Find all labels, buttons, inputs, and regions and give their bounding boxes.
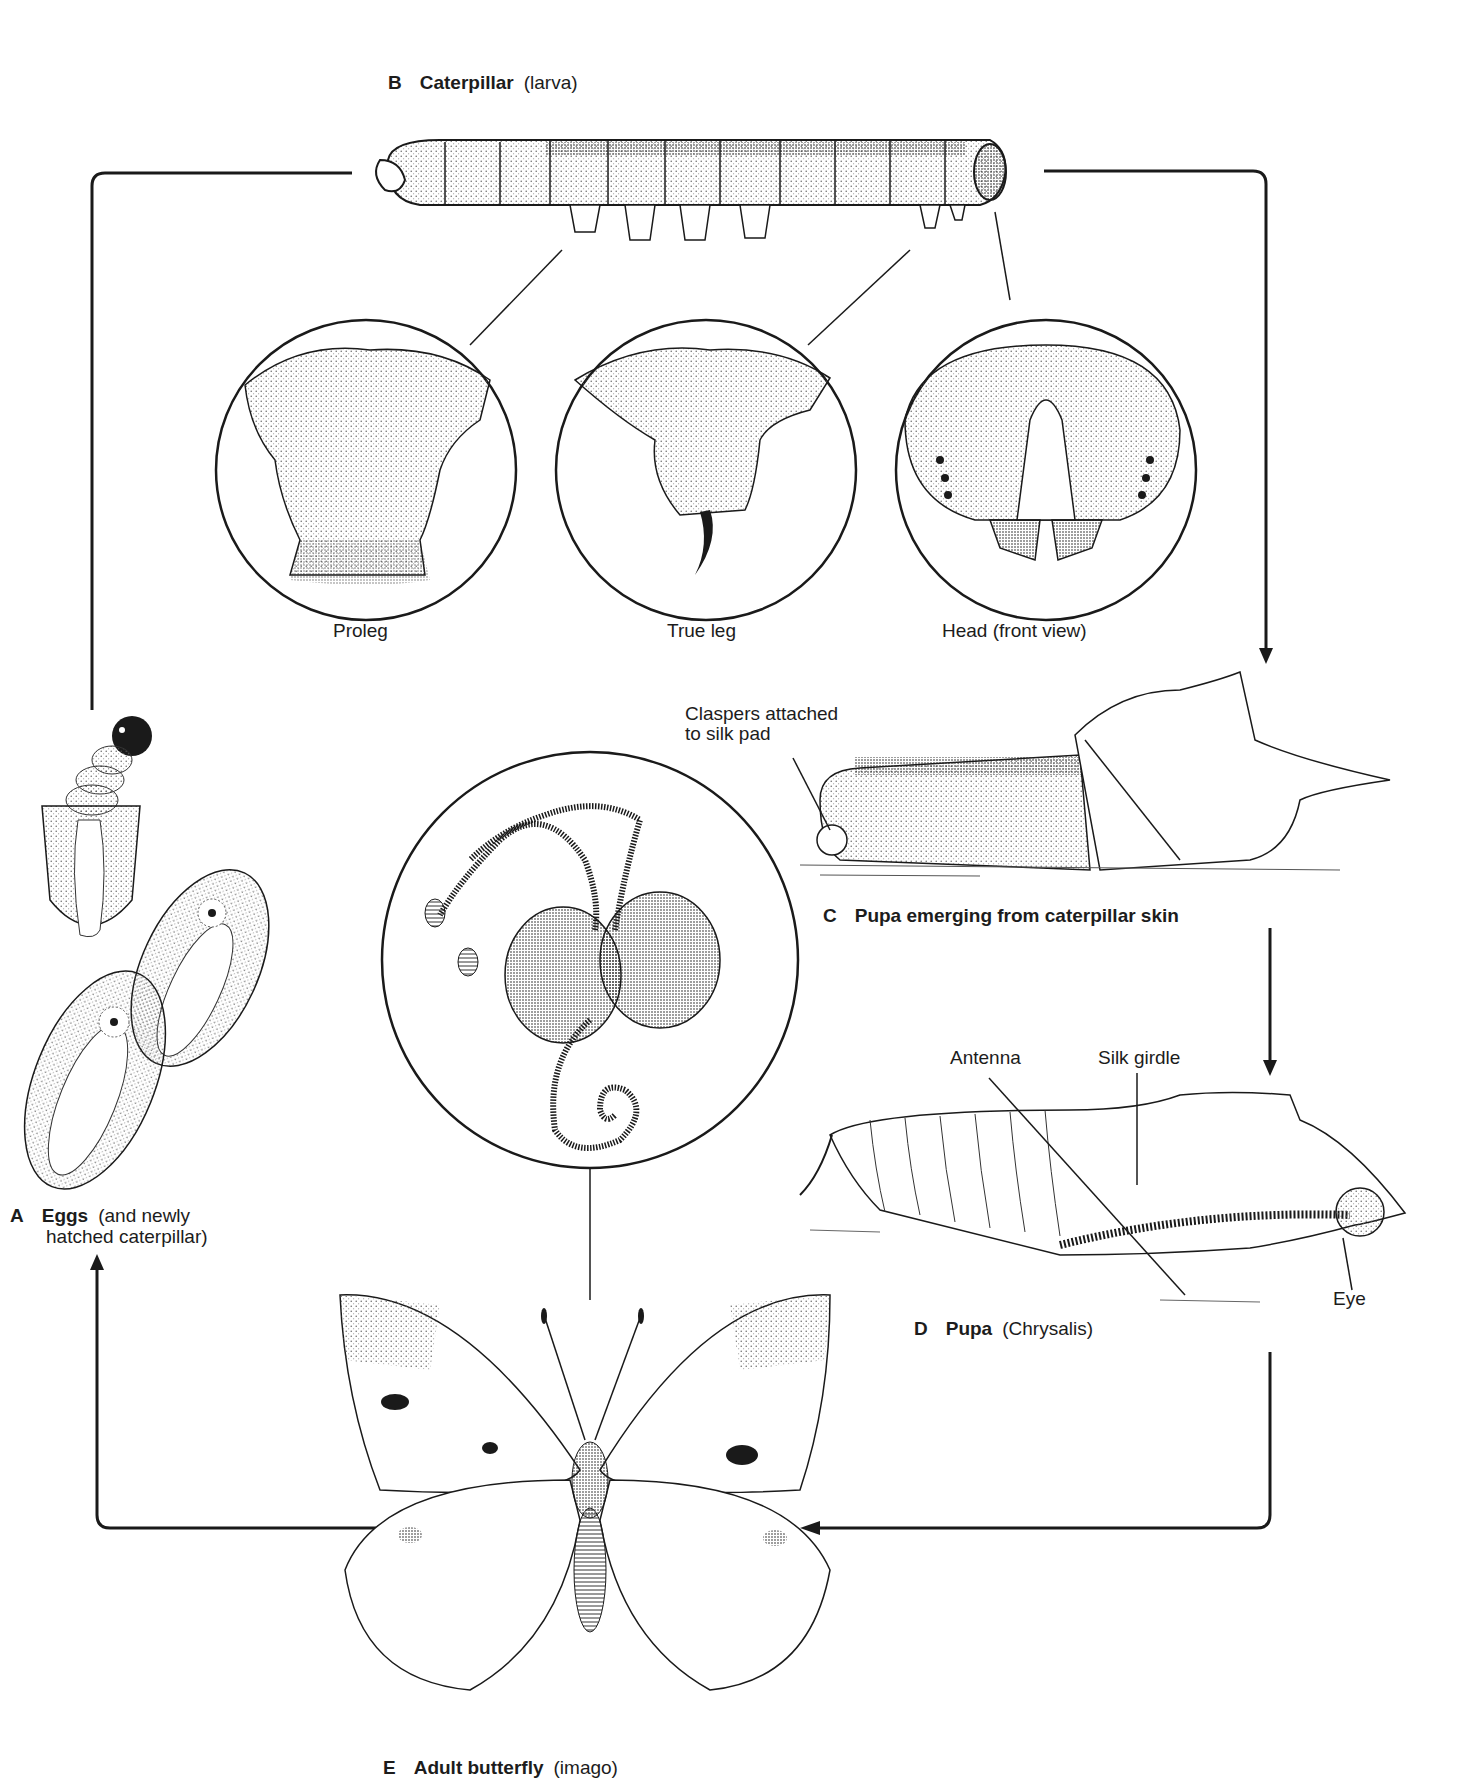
eye-label: Eye bbox=[1333, 1288, 1366, 1310]
detail-circle-butterfly-head bbox=[382, 752, 798, 1300]
claspers-label-line2: to silk pad bbox=[685, 723, 771, 745]
stage-d-label: DPupa(Chrysalis) bbox=[914, 1318, 1093, 1340]
arrow-e-to-a bbox=[97, 1270, 376, 1528]
stage-a-label: AEggs(and newly bbox=[10, 1205, 190, 1227]
head-front-view-label: Head (front view) bbox=[942, 620, 1087, 642]
detail-circle-true-leg bbox=[556, 320, 856, 620]
pupa-emerging-drawing bbox=[793, 672, 1390, 876]
stage-e-label: EAdult butterfly(imago) bbox=[383, 1757, 618, 1779]
claspers-label-line1: Claspers attached bbox=[685, 703, 838, 725]
detail-circle-head bbox=[896, 320, 1196, 620]
stage-c-label: CPupa emerging from caterpillar skin bbox=[823, 905, 1179, 927]
detail-circle-proleg bbox=[216, 320, 516, 620]
true-leg-label: True leg bbox=[667, 620, 736, 642]
stage-a-label-line2: hatched caterpillar) bbox=[46, 1226, 208, 1248]
silk-girdle-label: Silk girdle bbox=[1098, 1047, 1180, 1069]
eye-pointer bbox=[1343, 1238, 1352, 1290]
proleg-label: Proleg bbox=[333, 620, 388, 642]
hatching-caterpillar bbox=[66, 716, 152, 815]
antenna-label: Antenna bbox=[950, 1047, 1021, 1069]
chrysalis-drawing bbox=[800, 1073, 1405, 1302]
butterfly-drawing bbox=[340, 1295, 830, 1690]
arrow-d-to-e bbox=[820, 1352, 1270, 1528]
stage-b-label: BCaterpillar(larva) bbox=[388, 72, 578, 94]
caterpillar-drawing bbox=[376, 140, 1010, 345]
eggs-drawing bbox=[0, 716, 297, 1209]
